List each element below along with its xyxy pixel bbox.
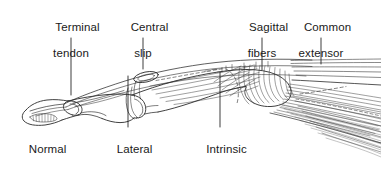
label-central-slip-line2: slip: [98, 47, 188, 60]
label-normal-line1: Normal: [29, 143, 67, 155]
label-common-extensor: Common extensor: [275, 8, 367, 86]
label-intrinsic-tendon-line1: Intrinsic: [206, 143, 247, 155]
label-central-slip: Central slip: [98, 8, 188, 86]
label-common-extensor-line1: Common: [304, 21, 351, 33]
label-intrinsic-tendon: Intrinsic tendon: [175, 130, 265, 170]
label-lateral-band-line1: Lateral: [117, 143, 153, 155]
label-intrinsic-tendon-line2: tendon: [175, 169, 265, 170]
label-normal: Normal: [1, 130, 81, 169]
label-central-slip-line1: Central: [131, 21, 169, 33]
label-lateral-band-line2: band: [83, 169, 173, 170]
label-lateral-band: Lateral band: [83, 130, 173, 170]
label-common-extensor-line2: extensor: [275, 47, 367, 60]
anatomy-figure: Terminal tendon Central slip Sagittal fi…: [0, 0, 381, 170]
label-terminal-tendon-line1: Terminal: [55, 21, 99, 33]
